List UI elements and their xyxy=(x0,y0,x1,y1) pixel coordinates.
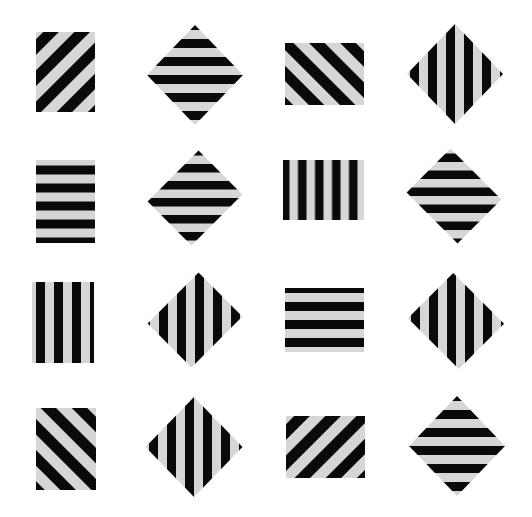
grating-patch-r4-c1 xyxy=(36,408,96,490)
grating-patch-r3-c3 xyxy=(285,288,364,352)
grating-patch-r1-c3 xyxy=(285,43,364,105)
grating-patch-r1-c1 xyxy=(36,32,95,112)
grating-patch-r4-c4 xyxy=(409,396,505,496)
grating-patch-r3-c4 xyxy=(408,273,504,369)
grating-grid xyxy=(0,0,532,517)
grating-patch-r1-c2 xyxy=(147,25,243,125)
grating-patch-r3-c1 xyxy=(32,282,94,363)
grating-patch-r2-c3 xyxy=(283,160,364,220)
grating-patch-r2-c2 xyxy=(148,151,243,246)
grating-patch-r2-c1 xyxy=(36,160,95,243)
grating-patch-r2-c4 xyxy=(407,149,502,244)
stimulus-canvas xyxy=(0,0,532,517)
grating-patch-r1-c4 xyxy=(407,24,503,124)
grating-patch-r4-c3 xyxy=(286,416,365,478)
grating-patch-r4-c2 xyxy=(146,397,243,497)
grating-patch-r3-c2 xyxy=(148,273,243,368)
